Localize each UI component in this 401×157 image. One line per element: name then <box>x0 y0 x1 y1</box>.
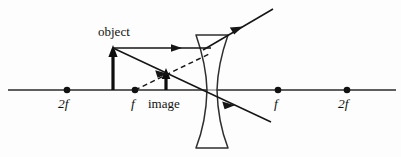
image-label: image <box>148 97 180 110</box>
diverging-lens <box>196 35 228 148</box>
focal-label-left-f: f <box>131 97 135 111</box>
refracted-diverging-ray <box>203 9 273 50</box>
optics-ray-diagram: object image 2f f f 2f <box>0 0 401 157</box>
focal-label-left-2f: 2f <box>58 97 69 111</box>
focal-label-right-2f: 2f <box>338 97 349 111</box>
focal-label-right-f: f <box>274 97 278 111</box>
object-label: object <box>98 25 130 38</box>
virtual-ray-dashed <box>135 54 209 90</box>
object-arrow <box>108 45 117 90</box>
focal-dot-left-2f <box>64 87 71 94</box>
incident-parallel-ray <box>113 44 211 52</box>
optics-diagram-canvas <box>0 0 401 157</box>
focal-dot-right-2f <box>344 87 351 94</box>
focal-dot-right-f <box>275 87 282 94</box>
center-ray <box>113 48 271 122</box>
